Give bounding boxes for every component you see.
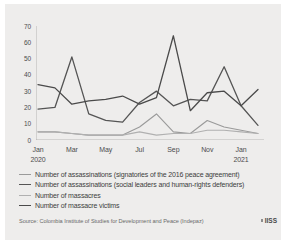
y-tick-label: 70 — [17, 23, 31, 30]
y-tick-label: 10 — [17, 120, 31, 127]
x-tick-label: Jan — [224, 146, 258, 153]
source-note: Source: Colombia Institute of Studies fo… — [19, 218, 203, 224]
legend-line-swatch-icon — [19, 184, 31, 185]
iiss-logo: IISS — [261, 217, 277, 224]
legend-item[interactable]: Number of assassinations (signatories of… — [19, 169, 277, 180]
x-tick-label: Nov — [190, 146, 224, 153]
axes-group — [36, 26, 264, 140]
x-tick-label: Jan — [21, 146, 55, 153]
y-tick-label: 20 — [17, 104, 31, 111]
y-tick-label: 50 — [17, 55, 31, 62]
legend-item-label: Number of assassinations (social leaders… — [35, 181, 244, 188]
x-tick-label: Mar — [55, 146, 89, 153]
legend-line-swatch-icon — [19, 195, 31, 196]
legend-item-label: Number of massacres — [35, 192, 101, 199]
logo-label: IISS — [265, 217, 277, 224]
y-tick-label: 60 — [17, 39, 31, 46]
x-tick-year-label: 2020 — [21, 156, 55, 163]
plot-area — [36, 26, 264, 140]
footer-row: Source: Colombia Institute of Studies fo… — [19, 217, 277, 224]
legend-item[interactable]: Number of assassinations (social leaders… — [19, 180, 277, 191]
legend-item-label: Number of massacre victims — [35, 202, 119, 209]
series-line — [38, 130, 258, 135]
chart-card: 010203040506070 Jan2020MarMayJulSepNovJa… — [5, 4, 281, 240]
series-line — [38, 36, 258, 111]
chart-legend: Number of assassinations (signatories of… — [19, 169, 277, 211]
legend-line-swatch-icon — [19, 205, 31, 206]
x-tick-label: Sep — [156, 146, 190, 153]
y-tick-label: 30 — [17, 88, 31, 95]
y-tick-label: 0 — [17, 137, 31, 144]
x-tick-label: Jul — [123, 146, 157, 153]
logo-square-icon — [261, 219, 264, 222]
line-chart-svg — [36, 26, 264, 140]
legend-item[interactable]: Number of massacres — [19, 190, 277, 201]
legend-item-label: Number of assassinations (signatories of… — [35, 171, 240, 178]
legend-item[interactable]: Number of massacre victims — [19, 201, 277, 212]
x-tick-year-label: 2021 — [224, 156, 258, 163]
legend-line-swatch-icon — [19, 174, 31, 175]
series-line — [38, 114, 258, 135]
series-group — [38, 36, 258, 135]
x-tick-label: May — [89, 146, 123, 153]
y-tick-label: 40 — [17, 71, 31, 78]
